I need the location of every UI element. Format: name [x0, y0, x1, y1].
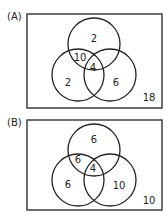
circle-right-a	[84, 49, 136, 101]
region-outside-a: 18	[143, 92, 156, 103]
circle-right-b	[84, 154, 136, 206]
region-top-left-a: 10	[74, 52, 87, 63]
region-right-only-a: 6	[113, 77, 119, 88]
region-right-only-b: 10	[113, 180, 126, 191]
diagram-label-b: (B)	[7, 117, 22, 128]
region-outside-b: 10	[143, 195, 156, 206]
venn-diagram-b: (B) 6 6 4 6 10 10	[7, 117, 162, 210]
region-top-only-b: 6	[91, 134, 97, 145]
region-top-left-b: 6	[75, 154, 81, 165]
region-top-only-a: 2	[91, 33, 97, 44]
region-left-only-a: 2	[65, 77, 71, 88]
region-center-b: 4	[90, 163, 96, 174]
diagram-label-a: (A)	[7, 11, 22, 22]
region-left-only-b: 6	[65, 179, 71, 190]
venn-diagram-a: (A) 2 10 4 2 6 18	[7, 11, 162, 108]
region-center-a: 4	[90, 62, 96, 73]
venn-diagrams: (A) 2 10 4 2 6 18 (B) 6 6 4 6 10 10	[0, 0, 168, 218]
